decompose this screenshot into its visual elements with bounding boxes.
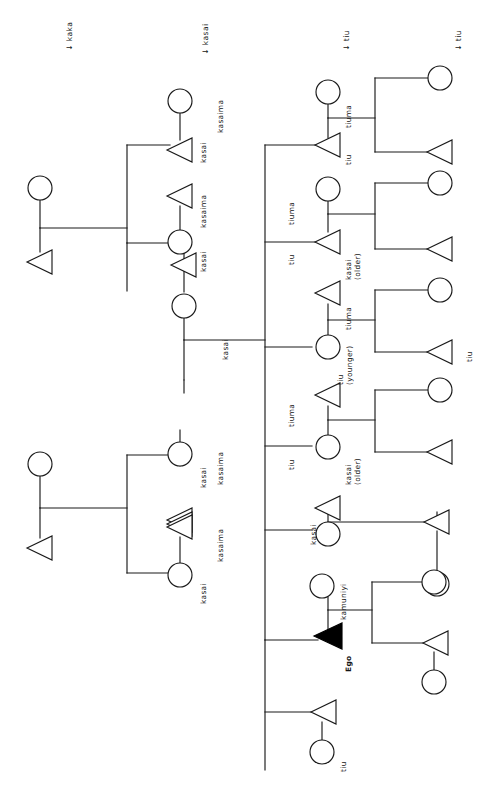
node-female-u1-spouse bbox=[168, 89, 192, 113]
label-tiu-younger-sibling: tiu bbox=[340, 761, 349, 772]
label-tiu-b1: tiu bbox=[345, 154, 354, 165]
label-tiu-younger-b3: tiu (younger) bbox=[337, 346, 354, 385]
node-female-b3-child bbox=[428, 278, 452, 302]
node-male-gp1 bbox=[27, 250, 52, 274]
node-female-u3-spouse bbox=[168, 442, 192, 466]
label-kasaima-u2-spouse: kasaima bbox=[200, 195, 209, 228]
label-kasaima-u4-spouse: kasaima bbox=[217, 529, 226, 562]
annotation-tiu-2: ↓ tiu bbox=[445, 30, 472, 62]
label-kasai-b5: kasai bbox=[310, 524, 319, 545]
node-female-gp1 bbox=[28, 176, 52, 200]
label-tiu-b4: tiu bbox=[288, 459, 297, 470]
node-male-ego-child bbox=[423, 631, 448, 655]
label-tiuma-b1: tiuma bbox=[345, 105, 354, 128]
label-kasai-u1: kasai bbox=[200, 142, 209, 163]
label-kasaima-u3-spouse: kasaima bbox=[217, 452, 226, 485]
node-male-gp2 bbox=[27, 536, 52, 560]
node-male-younger-sibling bbox=[311, 700, 336, 724]
node-male-u1 bbox=[167, 138, 192, 162]
node-female-younger-sibling-spouse bbox=[310, 740, 334, 764]
label-tiu-b3-children: tiu bbox=[466, 351, 475, 362]
node-female-b2-tiuma bbox=[316, 177, 340, 201]
node-female-b1-tiuma bbox=[316, 80, 340, 104]
node-female-b4-kasai-older bbox=[316, 435, 340, 459]
node-male-b3-child bbox=[427, 340, 452, 364]
node-male-b4-child bbox=[427, 440, 452, 464]
label-ego: Ego bbox=[345, 656, 354, 672]
node-female-ego-grandchild bbox=[422, 670, 446, 694]
node-female-mother bbox=[172, 294, 196, 318]
node-male-b2-child bbox=[427, 237, 452, 261]
label-kasaima-u1-spouse: kasaima bbox=[217, 100, 226, 133]
node-female-kamuniyi bbox=[310, 574, 334, 598]
node-female-b4-child bbox=[428, 378, 452, 402]
label-tiuma-b2: tiuma bbox=[288, 202, 297, 225]
label-kasai-u3: kasai bbox=[200, 467, 209, 488]
label-tiuma-b4: tiuma bbox=[288, 404, 297, 427]
node-male-u2-spouse bbox=[167, 184, 192, 208]
kinship-diagram-page: ↓ kaka ↓ kasai ↓ tiu ↓ tiu kasaima kasai… bbox=[0, 0, 494, 790]
label-kasai-older-b2: kasai (older) bbox=[345, 253, 362, 280]
node-female-b2-child bbox=[428, 171, 452, 195]
node-male-b2-kasai-older bbox=[315, 230, 340, 254]
label-kasai-older-b4: kasai (older) bbox=[345, 458, 362, 485]
kinship-diagram-canvas bbox=[0, 0, 494, 790]
node-female-b5 bbox=[316, 522, 340, 546]
node-male-b3-tiuma bbox=[315, 281, 340, 305]
node-male-b4-tiuma bbox=[315, 383, 340, 407]
annotation-kaka: ↓ kaka bbox=[56, 22, 83, 62]
label-tiuma-b3: tiuma bbox=[345, 307, 354, 330]
label-kasai-parents: kasai bbox=[222, 339, 231, 360]
label-kasai-u4: kasai bbox=[200, 583, 209, 604]
label-tiu-b2: tiu bbox=[288, 254, 297, 265]
label-kamuniyi: kamuniyi bbox=[340, 583, 349, 620]
node-female-ego-child bbox=[422, 570, 446, 594]
node-female-u4 bbox=[168, 563, 192, 587]
node-female-u2 bbox=[168, 230, 192, 254]
node-male-b1-child bbox=[427, 140, 452, 164]
label-kasai-u2: kasai bbox=[200, 251, 209, 272]
node-female-gp2 bbox=[28, 452, 52, 476]
annotation-tiu-1: ↓ tiu bbox=[333, 30, 360, 62]
node-female-b1-child bbox=[428, 66, 452, 90]
annotation-kasai: ↓ kasai bbox=[192, 24, 219, 67]
